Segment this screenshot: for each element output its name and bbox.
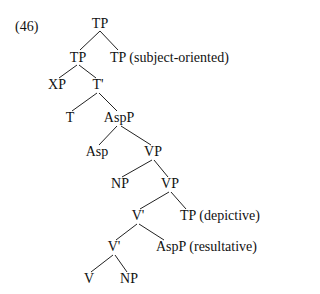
tree-node-t-bar: T' xyxy=(92,78,103,92)
node-annotation: (depictive) xyxy=(199,208,260,223)
tree-node-np: NP xyxy=(111,177,129,191)
tree-node-v: V xyxy=(84,272,94,286)
tree-node-tp-root: TP xyxy=(92,17,108,31)
tree-node-vp: VP xyxy=(144,145,162,159)
tree-node-aspp-resultative: AspP (resultative) xyxy=(156,240,257,254)
node-label: TP xyxy=(180,208,196,223)
node-annotation: (resultative) xyxy=(189,239,257,254)
node-label: TP xyxy=(110,50,126,65)
tree-node-v-bar-lower: V' xyxy=(108,240,121,254)
tree-node-np-object: NP xyxy=(120,272,138,286)
tree-node-v-bar: V' xyxy=(132,209,145,223)
tree-node-xp: XP xyxy=(48,78,66,92)
tree-node-aspp: AspP xyxy=(104,111,134,125)
node-label: AspP xyxy=(156,239,186,254)
tree-node-asp: Asp xyxy=(86,145,109,159)
tree-node-tp: TP xyxy=(70,51,86,65)
node-annotation: (subject-oriented) xyxy=(129,50,229,65)
tree-node-vp-lower: VP xyxy=(161,177,179,191)
tree-node-t: T xyxy=(66,111,75,125)
tree-node-tp-depictive: TP (depictive) xyxy=(180,209,260,223)
tree-node-tp-subject-oriented: TP (subject-oriented) xyxy=(110,51,229,65)
